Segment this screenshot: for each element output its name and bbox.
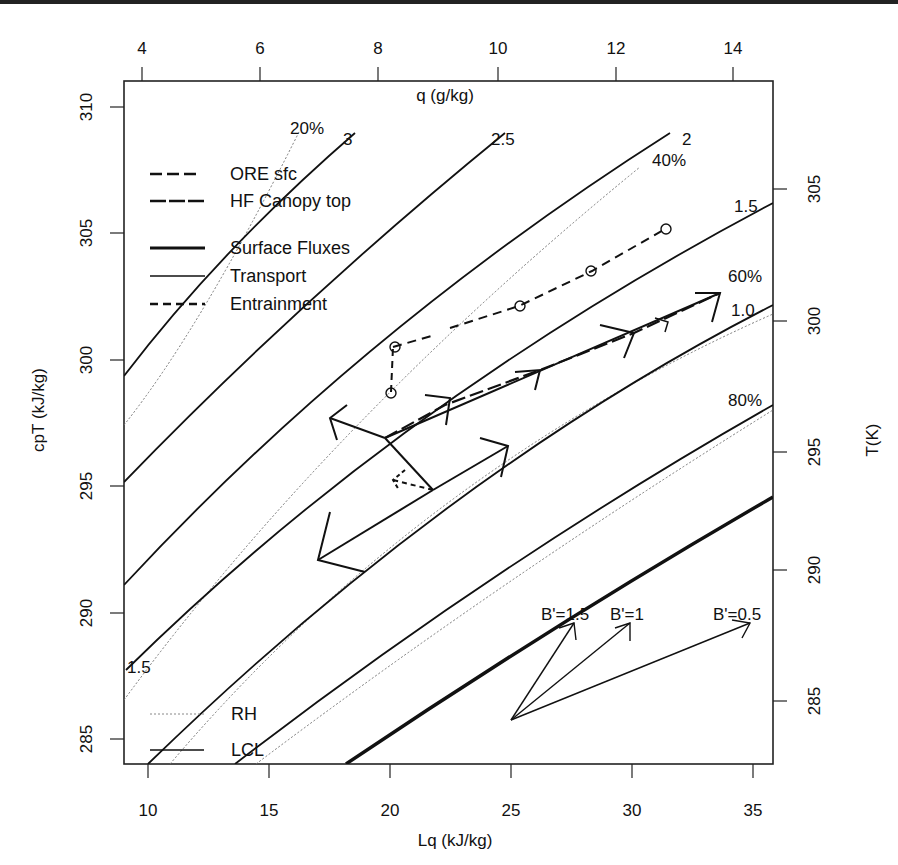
b-prime-label-1: B'=1	[610, 605, 644, 624]
lcl-label-1-5: 1.5	[734, 197, 758, 216]
lcl-label-2-5: 2.5	[491, 130, 515, 149]
x-axis-top	[142, 67, 733, 81]
y-tick-label: 305	[77, 219, 96, 247]
lcl-label-1-0: 1.0	[731, 301, 755, 320]
legend-label-transport: Transport	[230, 266, 306, 286]
rh-curve-60	[170, 314, 773, 764]
x-axis-bottom-labels: 10 15 20 25 30 35 Lq (kJ/kg)	[139, 801, 763, 850]
q-tick-label: 4	[137, 39, 146, 58]
x-tick-label: 20	[381, 801, 400, 820]
t-tick-label: 290	[805, 556, 824, 584]
legend-label-entrainment: Entrainment	[230, 294, 327, 314]
x-tick-label: 35	[744, 801, 763, 820]
t-tick-label: 300	[805, 307, 824, 335]
legend-label-lcl: LCL	[231, 740, 264, 760]
lcl-curves	[124, 133, 773, 764]
rh-curve-80	[256, 410, 773, 764]
q-tick-label: 8	[373, 39, 382, 58]
x-tick-label: 30	[623, 801, 642, 820]
rh-label-20: 20%	[290, 119, 324, 138]
x-tick-label: 15	[260, 801, 279, 820]
x-axis-bottom	[148, 764, 753, 778]
legend-label-rh: RH	[231, 704, 257, 724]
chart: 10 15 20 25 30 35 Lq (kJ/kg) 4 6 8 10 12…	[0, 0, 898, 865]
q-axis-title: q (g/kg)	[416, 86, 474, 105]
x-tick-label: 10	[139, 801, 158, 820]
y-axis-right-labels: 285 290 295 300 305 T(K)	[805, 175, 882, 715]
rh-label-80: 80%	[728, 391, 762, 410]
y-axis-right	[773, 189, 787, 701]
legend-label-ore: ORE sfc	[230, 164, 297, 184]
b-prime-label-1-5: B'=1.5	[541, 605, 589, 624]
q-tick-label: 12	[607, 39, 626, 58]
lcl-curve-1-5	[126, 203, 773, 670]
t-tick-label: 295	[805, 438, 824, 466]
y-tick-label: 295	[77, 472, 96, 500]
ore-point	[661, 224, 671, 234]
t-tick-label: 285	[805, 687, 824, 715]
lcl-curve-0-5	[235, 405, 773, 764]
rh-label-40: 40%	[652, 151, 686, 170]
lcl-label-1-5-left: 1.5	[127, 658, 151, 677]
flux-vectors	[318, 293, 720, 572]
t-tick-label: 305	[805, 175, 824, 203]
b-prime-label-0-5: B'=0.5	[713, 605, 761, 624]
y-axis-left-labels: 285 290 295 300 305 310 cpT (kJ/kg)	[29, 93, 96, 753]
t-axis-title: T(K)	[863, 423, 882, 456]
x-axis-top-labels: 4 6 8 10 12 14 q (g/kg)	[137, 39, 742, 105]
lcl-curve-1-0	[148, 305, 773, 764]
y-tick-label: 285	[77, 725, 96, 753]
plot-frame	[124, 81, 773, 764]
legend-label-hf: HF Canopy top	[230, 191, 351, 211]
q-tick-label: 6	[255, 39, 264, 58]
rh-label-60: 60%	[728, 267, 762, 286]
rh-curves	[124, 130, 773, 764]
lcl-label-2: 2	[682, 130, 691, 149]
q-tick-label: 10	[489, 39, 508, 58]
q-tick-label: 14	[724, 39, 743, 58]
x-axis-title: Lq (kJ/kg)	[418, 831, 493, 850]
y-tick-label: 300	[77, 346, 96, 374]
y-axis-title: cpT (kJ/kg)	[29, 368, 48, 452]
ore-point	[515, 301, 525, 311]
legend-bottom: RH LCL	[150, 704, 264, 760]
y-axis-left	[110, 107, 124, 739]
y-tick-label: 290	[77, 599, 96, 627]
x-tick-label: 25	[502, 801, 521, 820]
legend-label-sfc: Surface Fluxes	[230, 238, 350, 258]
lcl-label-3: 3	[343, 130, 352, 149]
y-tick-label: 310	[77, 93, 96, 121]
